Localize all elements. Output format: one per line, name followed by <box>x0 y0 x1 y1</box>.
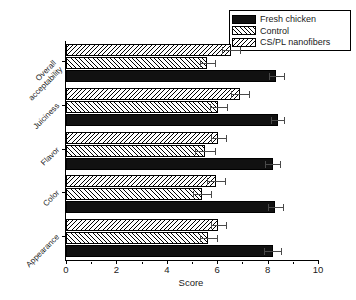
error-bar-cap <box>207 178 208 185</box>
error-bar <box>231 94 249 95</box>
error-bar-cap <box>215 148 216 155</box>
bar-fresh-chicken <box>66 114 278 126</box>
bar-cs-pl-nanofibers <box>66 88 240 100</box>
error-bar-cap <box>195 148 196 155</box>
error-bar <box>269 76 284 77</box>
error-bar-cap <box>226 222 227 229</box>
x-tick-label: 8 <box>265 264 270 275</box>
error-bar <box>200 238 218 239</box>
y-tick <box>62 192 66 193</box>
error-bar <box>211 138 226 139</box>
error-bar-cap <box>200 60 201 67</box>
error-bar-cap <box>200 235 201 242</box>
bar-control <box>66 57 207 69</box>
legend-item-fresh-chicken: Fresh chicken <box>232 14 347 25</box>
error-bar <box>210 107 228 108</box>
error-bar-cap <box>225 178 226 185</box>
bar-group-appearance <box>66 216 318 260</box>
error-bar <box>211 225 226 226</box>
bar-cs-pl-nanofibers <box>66 44 231 56</box>
x-tick-label: 2 <box>114 264 119 275</box>
error-bar-cap <box>211 135 212 142</box>
error-bar-cap <box>227 104 228 111</box>
error-bar <box>193 194 211 195</box>
error-bar <box>222 50 240 51</box>
error-bar-cap <box>269 73 270 80</box>
x-tick-minor <box>142 262 143 265</box>
error-bar-cap <box>240 47 241 54</box>
error-bar <box>268 207 283 208</box>
x-tick-minor <box>91 262 92 265</box>
error-bar-cap <box>226 135 227 142</box>
plot-area: 0246810 <box>65 41 318 261</box>
bar-fresh-chicken <box>66 70 276 82</box>
error-bar-cap <box>280 161 281 168</box>
error-bar-cap <box>284 117 285 124</box>
error-bar-cap <box>210 104 211 111</box>
error-bar <box>271 120 284 121</box>
legend-swatch-control <box>232 26 256 35</box>
y-tick <box>62 149 66 150</box>
error-bar-cap <box>268 204 269 211</box>
bar-control <box>66 101 218 113</box>
bar-group-color <box>66 172 318 216</box>
error-bar-cap <box>231 91 232 98</box>
error-bar-cap <box>249 91 250 98</box>
bar-control <box>66 145 205 157</box>
legend-item-control: Control <box>232 25 347 36</box>
x-tick-label: 4 <box>164 264 169 275</box>
bar-group-flavor <box>66 129 318 173</box>
x-tick-label: 0 <box>63 264 68 275</box>
bar-cs-pl-nanofibers <box>66 175 216 187</box>
bar-fresh-chicken <box>66 245 273 257</box>
error-bar <box>207 181 225 182</box>
error-bar-cap <box>271 117 272 124</box>
legend-label-control: Control <box>260 26 289 36</box>
error-bar <box>195 151 215 152</box>
x-axis-title: Score <box>65 277 317 288</box>
x-tick-minor <box>192 262 193 265</box>
y-tick <box>62 105 66 106</box>
error-bar <box>265 164 280 165</box>
sensory-score-bar-chart: Fresh chicken Control CS/PL nanofibers 0… <box>0 0 356 300</box>
legend-label-fresh-chicken: Fresh chicken <box>260 14 316 24</box>
x-tick-minor <box>293 262 294 265</box>
bar-fresh-chicken <box>66 201 275 213</box>
error-bar-cap <box>281 248 282 255</box>
y-tick <box>62 61 66 62</box>
error-bar-cap <box>193 191 194 198</box>
bar-group-juiciness <box>66 85 318 129</box>
error-bar-cap <box>265 161 266 168</box>
bar-fresh-chicken <box>66 158 273 170</box>
bar-control <box>66 232 208 244</box>
bar-control <box>66 188 202 200</box>
error-bar-cap <box>211 222 212 229</box>
error-bar-cap <box>283 204 284 211</box>
error-bar-cap <box>215 60 216 67</box>
bar-cs-pl-nanofibers <box>66 219 218 231</box>
error-bar <box>200 63 215 64</box>
error-bar-cap <box>222 47 223 54</box>
x-tick-label: 10 <box>313 264 324 275</box>
bar-group-overall-acceptability <box>66 41 318 85</box>
error-bar-cap <box>284 73 285 80</box>
legend-swatch-fresh-chicken <box>232 15 256 24</box>
x-tick-label: 6 <box>215 264 220 275</box>
error-bar-cap <box>264 248 265 255</box>
error-bar <box>264 251 282 252</box>
error-bar-cap <box>217 235 218 242</box>
x-tick-minor <box>242 262 243 265</box>
bar-cs-pl-nanofibers <box>66 132 218 144</box>
y-tick <box>62 236 66 237</box>
error-bar-cap <box>211 191 212 198</box>
